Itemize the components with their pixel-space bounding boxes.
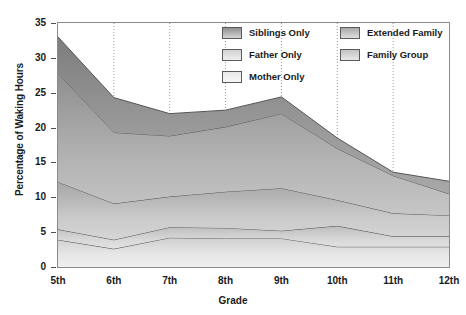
legend-item[interactable]: Mother Only (222, 70, 340, 83)
y-tick-label: 5 (22, 226, 46, 237)
x-tick-label: 6th (94, 275, 134, 286)
x-tick-label: 12th (429, 275, 466, 286)
x-tick-label: 5th (38, 275, 78, 286)
legend-column-1: Siblings OnlyFather OnlyMother Only (222, 26, 340, 83)
y-tick-label: 0 (22, 261, 46, 272)
legend-label: Siblings Only (249, 27, 310, 38)
legend-item[interactable]: Extended Family (340, 26, 454, 39)
y-tick-label: 10 (22, 191, 46, 202)
legend-swatch-icon (222, 71, 242, 83)
legend-item[interactable]: Family Group (340, 48, 454, 61)
legend-item[interactable]: Siblings Only (222, 26, 340, 39)
x-tick-label: 8th (206, 275, 246, 286)
legend-swatch-icon (222, 49, 242, 61)
legend-item[interactable]: Father Only (222, 48, 340, 61)
y-tick-label: 35 (22, 17, 46, 28)
x-tick-label: 7th (150, 275, 190, 286)
legend-label: Father Only (249, 49, 302, 60)
y-tick-mark (51, 267, 56, 268)
x-axis-title: Grade (0, 295, 466, 306)
y-tick-mark (51, 58, 56, 59)
x-tick-label: 9th (261, 275, 301, 286)
y-tick-label: 25 (22, 87, 46, 98)
y-tick-mark (51, 23, 56, 24)
y-tick-mark (51, 232, 56, 233)
y-tick-label: 20 (22, 122, 46, 133)
y-tick-mark (51, 197, 56, 198)
legend-label: Mother Only (249, 71, 304, 82)
x-tick-label: 10th (317, 275, 357, 286)
y-tick-label: 30 (22, 52, 46, 63)
legend-swatch-icon (222, 27, 242, 39)
y-tick-mark (51, 128, 56, 129)
legend-column-2: Extended FamilyFamily Group (340, 26, 454, 83)
y-tick-mark (51, 162, 56, 163)
y-tick-label: 15 (22, 156, 46, 167)
x-tick-label: 11th (373, 275, 413, 286)
legend-label: Family Group (367, 49, 428, 60)
chart-container: Percentage of Waking Hours 3530252015105… (0, 0, 466, 315)
legend: Siblings OnlyFather OnlyMother Only Exte… (222, 26, 454, 84)
legend-swatch-icon (340, 49, 360, 61)
legend-swatch-icon (340, 27, 360, 39)
y-tick-mark (51, 93, 56, 94)
legend-label: Extended Family (367, 27, 443, 38)
